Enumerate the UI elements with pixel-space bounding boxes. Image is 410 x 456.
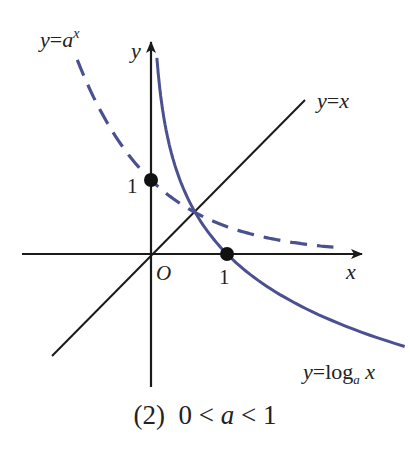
y-tick-label: 1	[127, 174, 138, 198]
log-curve-label: y=loga x	[301, 359, 375, 387]
caption-number: (2)	[134, 400, 165, 430]
caption-left: 0 <	[179, 400, 214, 430]
y-axis-label: y	[129, 38, 141, 63]
x-axis-label: x	[345, 259, 356, 284]
graph-canvas: y x O 1 1 y=ax y=x y=loga x	[0, 0, 410, 400]
exp-curve-label: y=ax	[38, 26, 80, 52]
exponential-curve	[77, 60, 333, 247]
point-1-0	[220, 247, 234, 261]
caption-right: < 1	[241, 400, 276, 430]
origin-label: O	[156, 261, 171, 285]
point-0-1	[144, 173, 158, 187]
logarithm-curve	[157, 58, 405, 347]
figure-caption: (2) 0 < a < 1	[0, 400, 410, 431]
identity-line-label: y=x	[315, 88, 349, 113]
identity-line	[52, 100, 305, 356]
x-tick-label: 1	[219, 265, 230, 289]
caption-variable: a	[221, 400, 235, 430]
